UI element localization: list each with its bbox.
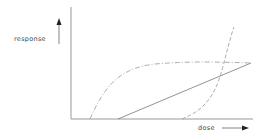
- series-saturating: [90, 62, 251, 119]
- series-threshold: [182, 27, 234, 119]
- x-axis-label: dose: [198, 124, 215, 132]
- y-axis-label: response: [14, 35, 46, 43]
- x-arrow-icon: [222, 126, 249, 131]
- dose-response-diagram: [0, 0, 266, 140]
- series-linear: [118, 63, 251, 119]
- y-arrow-icon: [57, 18, 62, 44]
